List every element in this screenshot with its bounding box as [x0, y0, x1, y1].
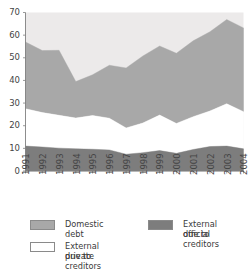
legend-label-external-official-line2: official creditors	[183, 230, 219, 249]
x-axis-tick-label: 1998	[140, 153, 149, 175]
x-axis-tick-label: 2004	[240, 153, 249, 175]
x-axis-tick-label: 2000	[173, 153, 182, 175]
x-axis-tick-label: 2002	[207, 153, 216, 175]
y-axis-tick-label: 30	[2, 99, 20, 108]
y-axis-tick-label: 20	[2, 121, 20, 130]
x-axis-tick-label: 1991	[22, 153, 31, 175]
chart-legend: Domestic debt External due to official c…	[0, 214, 252, 264]
x-axis-tick-label: 1994	[73, 153, 82, 175]
y-axis-tick-label: 70	[2, 8, 20, 17]
chart-title-fragment	[8, 0, 188, 9]
y-axis-tick-label: 60	[2, 31, 20, 40]
x-axis-tick-label: 1993	[56, 153, 65, 175]
y-axis-tick-label: 50	[2, 53, 20, 62]
legend-swatch-domestic-debt	[30, 220, 55, 230]
legend-swatch-external-official	[148, 220, 173, 230]
x-axis-tick-label: 1999	[156, 153, 165, 175]
legend-label-domestic-debt: Domestic debt	[65, 220, 104, 239]
x-axis-tick-label: 2001	[190, 153, 199, 175]
x-axis-tick-label: 1992	[39, 153, 48, 175]
x-axis-tick-label: 1996	[106, 153, 115, 175]
x-axis-tick-label: 1995	[89, 153, 98, 175]
x-axis-tick-label: 1997	[123, 153, 132, 175]
legend-label-external-private-line2: private creditors	[65, 252, 101, 271]
y-axis-tick-label: 0	[2, 167, 20, 176]
y-axis-tick-label: 40	[2, 76, 20, 85]
y-axis-tick-label: 10	[2, 144, 20, 153]
x-axis-tick-label: 2003	[224, 153, 233, 175]
legend-swatch-external-private	[30, 242, 55, 252]
